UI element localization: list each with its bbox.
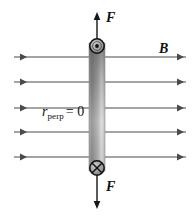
equals-sign: = <box>64 104 74 119</box>
r-value: 0 <box>77 104 84 119</box>
r-perpendicular-label: rperp= 0 <box>42 105 84 119</box>
physics-diagram-figure: F F B rperp= 0 <box>0 0 195 220</box>
force-label-bottom: F <box>106 180 115 194</box>
r-subscript: perp <box>47 111 63 121</box>
circle-dot-icon <box>90 39 104 53</box>
arrow-up-icon <box>94 12 101 42</box>
magnetic-field-label: B <box>159 42 168 56</box>
force-label-top: F <box>106 11 115 25</box>
diagram-canvas <box>0 0 195 220</box>
conducting-bar <box>89 43 105 171</box>
circle-cross-icon <box>90 161 104 175</box>
